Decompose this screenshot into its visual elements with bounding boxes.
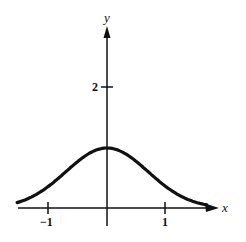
curve-line xyxy=(17,148,207,205)
y-axis-arrow-icon xyxy=(104,26,111,38)
x-tick-label-1: 1 xyxy=(162,215,168,229)
chart: y x −1 1 2 xyxy=(0,0,246,242)
x-axis-label: x xyxy=(221,200,228,215)
y-tick-label-2: 2 xyxy=(92,80,98,94)
x-tick-label-neg1: −1 xyxy=(40,215,53,229)
y-axis-label: y xyxy=(102,10,110,25)
x-axis-arrow-icon xyxy=(205,204,219,213)
